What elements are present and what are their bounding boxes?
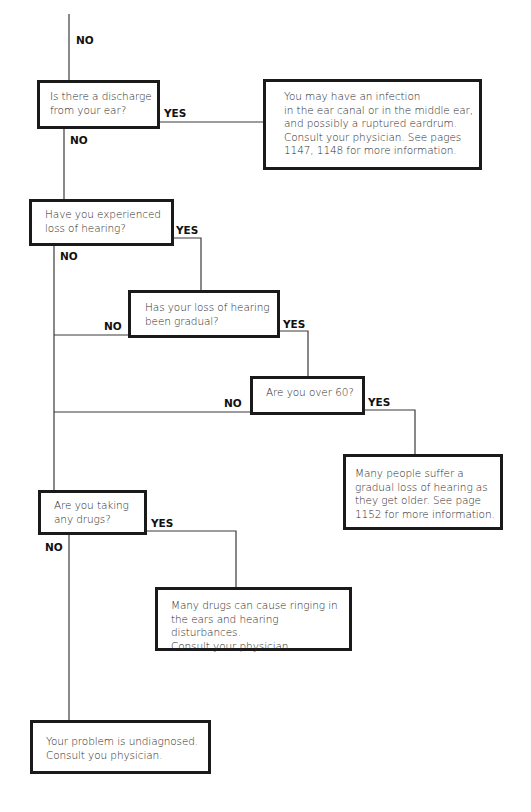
result-drugs-text: Many drugs can cause ringing in the ears… — [171, 599, 349, 653]
result-undiagnosed-text: Your problem is undiagnosed. Consult you… — [46, 735, 198, 762]
label-yes-over60: YES — [368, 396, 390, 408]
result-undiagnosed: Your problem is undiagnosed. Consult you… — [30, 720, 211, 774]
label-no-gradual: NO — [104, 320, 122, 332]
edge-over60-yes — [365, 410, 415, 454]
label-yes-gradual: YES — [283, 318, 305, 330]
question-drugs: Are you taking any drugs? — [38, 490, 147, 535]
question-drugs-text: Are you taking any drugs? — [54, 499, 129, 526]
result-infection: You may have an infection in the ear can… — [263, 79, 482, 170]
result-age: Many people suffer a gradual loss of hea… — [343, 454, 503, 530]
result-drugs: Many drugs can cause ringing in the ears… — [155, 587, 352, 651]
edge-gradual-yes — [280, 331, 308, 376]
question-over60: Are you over 60? — [250, 376, 365, 415]
question-hearing-loss: Have you experienced loss of hearing? — [29, 199, 174, 246]
label-yes-drugs: YES — [151, 517, 173, 529]
label-no-discharge: NO — [70, 134, 88, 146]
question-gradual: Has your loss of hearing been gradual? — [128, 290, 280, 338]
label-no-hearing: NO — [60, 250, 78, 262]
label-yes-discharge: YES — [164, 107, 186, 119]
label-no-incoming: NO — [76, 34, 94, 46]
question-hearing-loss-text: Have you experienced loss of hearing? — [45, 208, 161, 235]
label-no-drugs: NO — [45, 541, 63, 553]
edge-hearing-yes — [174, 238, 201, 290]
label-no-over60: NO — [224, 397, 242, 409]
question-discharge-text: Is there a discharge from your ear? — [50, 90, 152, 117]
result-age-text: Many people suffer a gradual loss of hea… — [355, 467, 495, 521]
question-gradual-text: Has your loss of hearing been gradual? — [145, 301, 270, 328]
question-discharge: Is there a discharge from your ear? — [37, 80, 160, 129]
label-yes-hearing: YES — [176, 224, 198, 236]
edge-drugs-yes — [147, 531, 236, 587]
question-over60-text: Are you over 60? — [266, 386, 354, 400]
result-infection-text: You may have an infection in the ear can… — [284, 90, 473, 158]
